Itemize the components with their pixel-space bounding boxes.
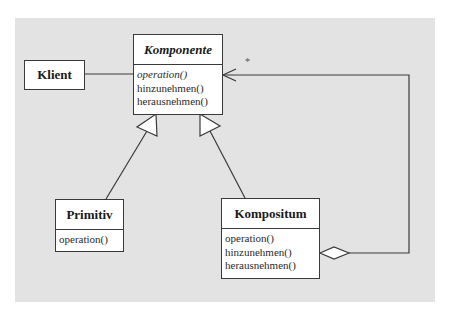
class-komponente: Komponente operation() hinzunehmen() her… [133,34,223,115]
operations-list: operation() [56,229,123,247]
class-klient: Klient [24,60,85,90]
operation-item: operation() [225,232,319,246]
class-kompositum: Kompositum operation() hinzunehmen() her… [221,198,320,279]
operation-item: herausnehmen() [225,259,319,273]
class-name: Klient [25,61,84,88]
operations-list: operation() hinzunehmen() herausnehmen() [222,228,319,273]
operation-item: operation() [59,233,123,247]
class-name: Komponente [134,35,222,64]
multiplicity-label: * [245,56,250,67]
operation-item: hinzunehmen() [137,82,222,96]
operations-list: operation() hinzunehmen() herausnehmen() [134,64,222,109]
class-name: Primitiv [56,200,123,229]
operation-item: operation() [137,68,222,82]
operation-item: hinzunehmen() [225,246,319,260]
class-primitiv: Primitiv operation() [55,199,124,252]
operation-item: herausnehmen() [137,95,222,109]
class-name: Kompositum [222,199,319,228]
